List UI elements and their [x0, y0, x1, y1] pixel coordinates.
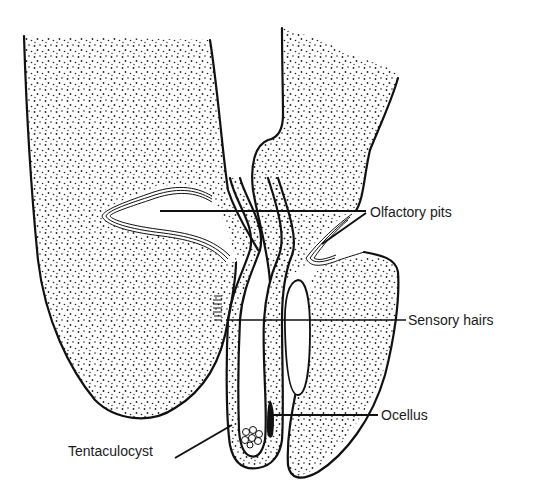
- label-olfactory-pits: Olfactory pits: [370, 205, 452, 219]
- tentaculocyst-diagram: [0, 0, 543, 497]
- right-lower-lobe: [285, 252, 399, 478]
- label-sensory-hairs: Sensory hairs: [408, 313, 494, 327]
- sensory-hairs: [213, 296, 222, 320]
- statolith-cluster: [242, 427, 263, 449]
- leader-tentaculocyst: [175, 425, 232, 458]
- label-ocellus: Ocellus: [381, 408, 428, 422]
- label-tentaculocyst: Tentaculocyst: [68, 444, 153, 458]
